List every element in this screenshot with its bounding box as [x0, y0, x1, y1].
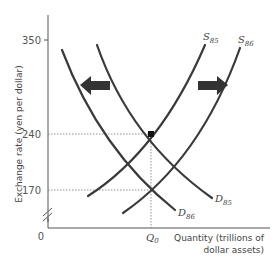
label-d85: D85: [214, 193, 232, 207]
label-s85: S85: [203, 31, 219, 45]
origin-label: 0: [38, 231, 44, 242]
y-tick-240: 240: [22, 129, 41, 140]
x-tick-q0: Q0: [146, 232, 159, 245]
y-axis-label: Exchange rate (yen per dollar): [14, 65, 24, 203]
arrow-left-icon: [80, 76, 110, 95]
label-s86: S86: [238, 34, 254, 48]
label-d86: D86: [177, 207, 195, 221]
arrow-right-icon: [198, 76, 228, 95]
guide-lines: [48, 134, 151, 228]
x-axis-label-line1: Quantity (trillions of: [174, 233, 265, 243]
y-tick-350: 350: [22, 35, 41, 46]
chart: 350 240 170 0 Exchange rate (yen per dol…: [0, 0, 277, 265]
curve-s86: [123, 48, 240, 213]
y-tick-170: 170: [22, 185, 41, 196]
x-axis-label-line2: dollar assets): [204, 245, 264, 255]
equilibrium-marker: [148, 131, 154, 137]
